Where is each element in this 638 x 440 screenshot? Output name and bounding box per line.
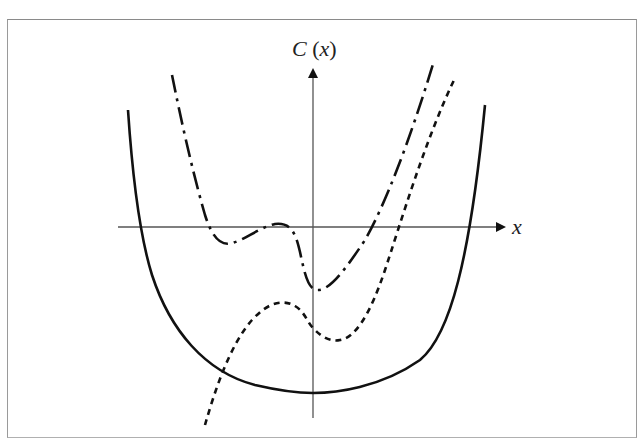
- solid-curve: [128, 105, 485, 393]
- y-axis-label: C (x): [292, 36, 337, 61]
- x-axis-label: x: [511, 214, 522, 239]
- function-plot: C (x) x: [0, 0, 638, 440]
- dotted-curve: [205, 78, 455, 425]
- dash-dot-curve: [172, 64, 433, 290]
